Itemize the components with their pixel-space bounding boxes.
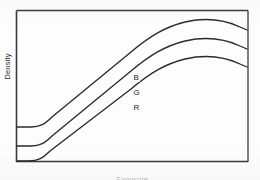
characteristic-curve-chart [0, 0, 260, 180]
curve-label-red: R [133, 103, 140, 112]
curve-red [17, 57, 247, 161]
curve-label-blue: B [133, 73, 140, 82]
x-axis-title: Exposure [16, 171, 248, 180]
figure-canvas: Density Exposure B G R [0, 0, 260, 180]
curve-blue [17, 20, 247, 127]
y-axis-title: Density [3, 44, 12, 90]
plot-frame [16, 11, 248, 163]
curve-green [17, 39, 247, 146]
curve-label-green: G [133, 88, 141, 97]
